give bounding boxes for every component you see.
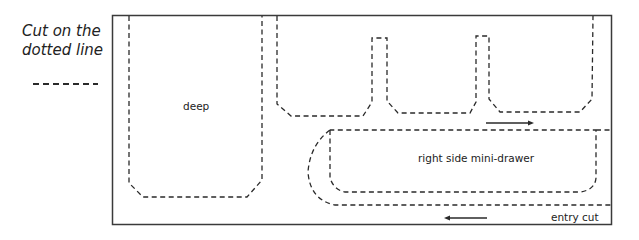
top-pocket-1-cutline <box>277 16 593 116</box>
arrow-left-icon <box>444 216 487 221</box>
entry-cut-label: entry cut <box>551 211 599 223</box>
cut-template-diagram: deep right side mini-drawer entry cut <box>0 0 639 240</box>
deep-label: deep <box>183 100 210 112</box>
template-border <box>113 16 612 225</box>
arrow-right-icon <box>486 121 534 126</box>
entry-cut-cutline <box>308 130 611 205</box>
mini-drawer-label: right side mini-drawer <box>418 152 535 164</box>
